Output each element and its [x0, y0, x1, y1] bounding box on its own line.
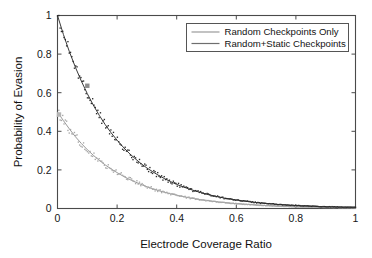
data-point [114, 170, 115, 171]
data-point [279, 204, 280, 205]
data-point [112, 170, 113, 171]
data-point [105, 127, 106, 128]
data-point [214, 201, 215, 202]
data-point [299, 205, 300, 206]
data-point [205, 193, 206, 194]
data-point [162, 179, 163, 180]
data-point [199, 199, 200, 200]
data-point [200, 199, 201, 200]
data-point [119, 173, 120, 174]
data-point [229, 203, 230, 204]
data-point [177, 195, 178, 196]
data-point [341, 206, 342, 207]
data-point [154, 190, 155, 191]
data-point [287, 204, 288, 205]
data-point [72, 134, 73, 135]
data-point [83, 80, 84, 81]
data-point [113, 171, 114, 172]
data-point [207, 193, 208, 194]
data-point [102, 162, 103, 163]
data-point [88, 97, 89, 98]
data-point [66, 45, 67, 46]
data-point [272, 203, 273, 204]
data-point [115, 169, 116, 170]
data-point [300, 205, 301, 206]
data-point [193, 190, 194, 191]
data-point [180, 184, 181, 185]
data-point [236, 199, 237, 200]
data-point [59, 27, 60, 28]
data-point [221, 202, 222, 203]
data-point [204, 193, 205, 194]
data-point [134, 181, 135, 182]
data-point [298, 206, 299, 207]
data-point [149, 187, 150, 188]
data-point [203, 192, 204, 193]
data-point [220, 197, 221, 198]
data-point [312, 205, 313, 206]
data-point [277, 204, 278, 205]
data-point [318, 206, 319, 207]
data-point [248, 204, 249, 205]
data-point [313, 205, 314, 206]
data-point [342, 206, 343, 207]
data-point [225, 198, 226, 199]
data-point [132, 180, 133, 181]
data-point [79, 75, 80, 76]
data-point [63, 123, 64, 124]
data-point [330, 206, 331, 207]
data-point [121, 145, 122, 146]
data-point [352, 207, 353, 208]
data-point [247, 204, 248, 205]
data-point [235, 200, 236, 201]
data-point [291, 206, 292, 207]
data-point [282, 206, 283, 207]
data-point [317, 206, 318, 207]
data-point [210, 195, 211, 196]
data-point [171, 193, 172, 194]
data-point [74, 68, 75, 69]
data-point [283, 204, 284, 205]
data-point [272, 205, 273, 206]
x-tick-labels: 00.20.40.60.81 [55, 212, 359, 224]
data-point [169, 180, 170, 181]
data-point [100, 160, 101, 161]
data-point [213, 201, 214, 202]
data-point [72, 61, 73, 62]
data-point [253, 204, 254, 205]
data-point [226, 198, 227, 199]
data-point [246, 204, 247, 205]
data-point [344, 206, 345, 207]
data-point [101, 161, 102, 162]
data-point [173, 181, 174, 182]
data-point [127, 179, 128, 180]
data-point [140, 185, 141, 186]
data-point [246, 201, 247, 202]
data-point [80, 146, 81, 147]
data-point [140, 163, 141, 164]
data-point [324, 206, 325, 207]
data-point [178, 195, 179, 196]
data-point [207, 200, 208, 201]
data-point [104, 165, 105, 166]
y-tick-labels: 00.20.40.60.81 [37, 9, 52, 214]
data-point [96, 113, 97, 114]
data-point [275, 204, 276, 205]
data-point [295, 206, 296, 207]
data-point [97, 160, 98, 161]
data-point [152, 189, 153, 190]
data-point [311, 206, 312, 207]
data-point [304, 205, 305, 206]
data-point [88, 152, 89, 153]
data-point [121, 172, 122, 173]
data-point [212, 201, 213, 202]
data-point [71, 56, 72, 57]
data-point [218, 202, 219, 203]
data-point [270, 203, 271, 204]
data-point [126, 150, 127, 151]
data-point [192, 191, 193, 192]
data-point [191, 188, 192, 189]
data-point [322, 206, 323, 207]
data-point [249, 204, 250, 205]
data-point [169, 193, 170, 194]
